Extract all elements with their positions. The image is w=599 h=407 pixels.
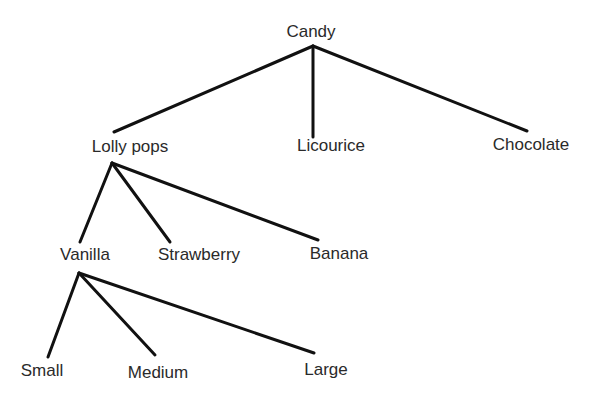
node-licourice: Licourice	[297, 137, 365, 154]
node-medium: Medium	[128, 364, 188, 381]
edge-candy-lollypops	[114, 46, 313, 132]
edge-lollypops-banana	[112, 163, 318, 240]
tree-diagram: Candy Lolly pops Licourice Chocolate Van…	[0, 0, 599, 407]
node-small: Small	[21, 362, 64, 379]
node-candy: Candy	[286, 23, 335, 40]
tree-edges	[0, 0, 599, 407]
node-banana: Banana	[310, 245, 369, 262]
node-strawberry: Strawberry	[158, 246, 240, 263]
edge-lollypops-vanilla	[80, 163, 112, 242]
node-chocolate: Chocolate	[493, 136, 570, 153]
edge-vanilla-small	[48, 273, 79, 357]
node-large: Large	[304, 361, 347, 378]
node-lolly-pops: Lolly pops	[92, 138, 169, 155]
edge-candy-chocolate	[313, 46, 527, 131]
node-vanilla: Vanilla	[60, 246, 110, 263]
